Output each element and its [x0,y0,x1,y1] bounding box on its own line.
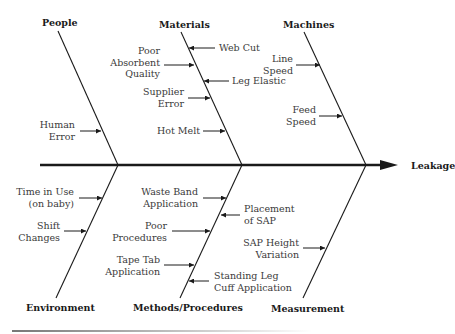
cause-time-in-use: Time in Use (on baby) [4,186,74,209]
category-people: People [42,17,78,28]
category-machines: Machines [283,19,334,30]
effect-label: Leakage [411,160,455,171]
cause-leg-elastic: Leg Elastic [232,75,286,87]
cause-feed-speed: Feed Speed [266,104,316,127]
category-methods: Methods/Procedures [133,302,243,313]
cause-supplier-error: Supplier Error [124,86,184,109]
cause-waste-band-application: Waste Band Application [118,186,198,209]
bone-machines [304,32,366,165]
spine-arrowhead [380,160,398,170]
cause-standing-leg-cuff-application: Standing Leg Cuff Application [214,270,292,293]
category-materials: Materials [159,19,210,30]
cause-human-error: Human Error [15,119,75,142]
cause-poor-procedures: Poor Procedures [97,220,167,243]
bone-measurement [303,165,366,298]
cause-sap-height-variation: SAP Height Variation [229,237,299,260]
bottom-rule [12,330,312,332]
cause-poor-absorbent-quality: Poor Absorbent Quality [80,45,160,80]
cause-line-speed: Line Speed [243,53,293,76]
cause-tape-tab-application: Tape Tab Application [90,254,160,277]
cause-web-cut: Web Cut [219,42,260,54]
category-measurement: Measurement [271,303,344,314]
cause-hot-melt: Hot Melt [140,125,200,137]
category-environment: Environment [26,302,95,313]
cause-placement-of-sap: Placement of SAP [244,203,295,226]
cause-shift-changes: Shift Changes [10,220,60,243]
